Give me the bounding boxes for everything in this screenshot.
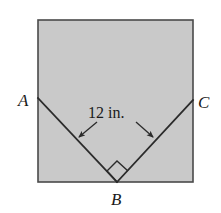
figure-canvas: 12 in. A B C [0, 0, 221, 213]
vertex-label-c: C [198, 93, 210, 112]
measurement-label: 12 in. [88, 104, 124, 121]
shaded-square [38, 20, 193, 182]
vertex-label-b: B [111, 190, 122, 209]
geometry-figure: 12 in. A B C [0, 0, 221, 213]
vertex-label-a: A [17, 91, 29, 110]
